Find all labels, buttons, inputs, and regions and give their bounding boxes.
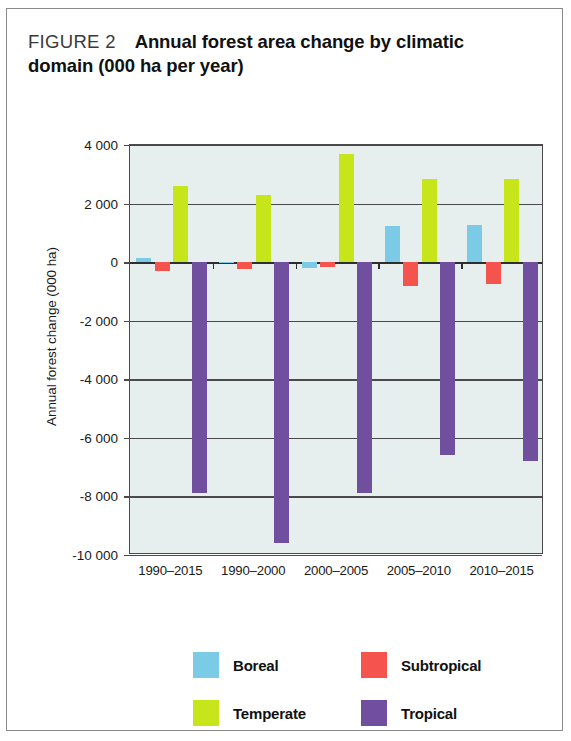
legend-label-tropical: Tropical [401,705,457,722]
legend-label-temperate: Temperate [233,705,306,722]
chart-legend: BorealSubtropicalTemperateTropical [193,641,523,737]
legend-swatch-temperate [193,700,219,726]
x-tick-mark [378,262,379,269]
bar-tropical-0 [192,262,207,493]
plot-area: 4 0002 0000-2 000-4 000-6 000-8 000-10 0… [129,144,543,554]
bar-group [130,145,213,553]
bar-temperate-3 [422,179,437,262]
x-tick-label: 2005–2010 [377,563,460,578]
x-tick-label: 1990–2000 [212,563,295,578]
bar-temperate-0 [173,186,188,262]
legend-item-subtropical: Subtropical [361,652,481,678]
y-tick-label: -2 000 [80,313,118,328]
bar-temperate-1 [256,195,271,262]
bar-tropical-2 [357,262,372,493]
bar-group [461,145,544,553]
legend-swatch-subtropical [361,652,387,678]
y-tick-label: 4 000 [84,138,118,153]
bar-tropical-1 [274,262,289,543]
y-tick-mark [124,555,130,556]
y-tick-label: 2 000 [84,196,118,211]
y-tick-label: -6 000 [80,430,118,445]
y-tick-label: -4 000 [80,372,118,387]
bar-boreal-0 [136,258,151,263]
bar-tropical-4 [523,262,538,461]
bar-temperate-2 [339,154,354,262]
bar-group [213,145,296,553]
legend-swatch-boreal [193,652,219,678]
gridline--10000: -10 000 [130,555,542,556]
legend-label-boreal: Boreal [233,657,279,674]
bar-subtropical-4 [486,262,501,284]
bar-group [378,145,461,553]
bar-boreal-4 [467,225,482,262]
y-tick-label: -10 000 [72,548,118,563]
y-axis-title: Annual forest change (000 ha) [44,217,59,457]
x-tick-mark [461,262,462,269]
bar-subtropical-2 [320,262,335,267]
x-tick-mark [213,262,214,269]
bar-tropical-3 [440,262,455,455]
x-tick-mark [296,262,297,269]
figure-card: FIGURE 2 Annual forest area change by cl… [6,8,563,731]
legend-swatch-tropical [361,700,387,726]
x-tick-label: 2010–2015 [460,563,543,578]
bar-boreal-2 [302,262,317,268]
bar-boreal-1 [219,262,234,264]
legend-item-tropical: Tropical [361,700,457,726]
bar-temperate-4 [504,179,519,262]
plot-inner: 4 0002 0000-2 000-4 000-6 000-8 000-10 0… [130,145,542,553]
bar-boreal-3 [385,226,400,263]
bar-subtropical-3 [403,262,418,285]
y-tick-label: 0 [110,255,118,270]
x-tick-label: 2000–2005 [295,563,378,578]
bar-subtropical-0 [155,262,170,271]
x-tick-label: 1990–2015 [129,563,212,578]
legend-item-boreal: Boreal [193,652,361,678]
bar-group [296,145,379,553]
legend-row: BorealSubtropical [193,641,523,689]
legend-label-subtropical: Subtropical [401,657,481,674]
chart-region: Annual forest change (000 ha) 4 0002 000… [7,9,564,732]
legend-item-temperate: Temperate [193,700,361,726]
legend-row: TemperateTropical [193,689,523,737]
bar-subtropical-1 [237,262,252,269]
y-tick-label: -8 000 [80,489,118,504]
